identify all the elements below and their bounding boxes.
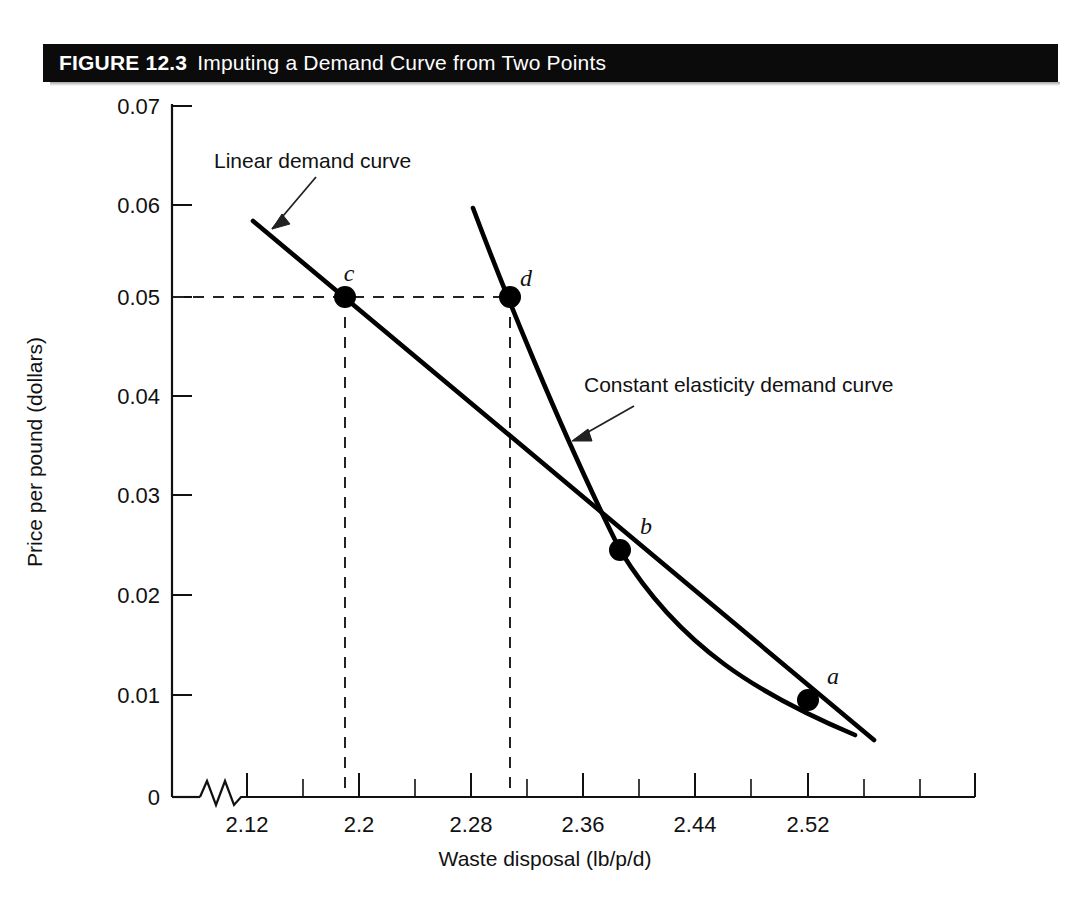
x-tick-labels-group: 2.12 2.2 2.28 2.36 2.44 2.52	[226, 812, 830, 837]
y-tick-label-0.01: 0.01	[117, 683, 160, 708]
data-point-a	[797, 689, 819, 711]
annotation-arrowhead-linear	[272, 214, 290, 229]
x-tick-label-2.52: 2.52	[787, 812, 830, 837]
annotation-linear: Linear demand curve	[214, 149, 411, 229]
data-point-d	[499, 286, 521, 308]
data-point-label-c: c	[344, 260, 355, 286]
y-tick-label-0.06: 0.06	[117, 193, 160, 218]
annotation-arrowhead-constant-elasticity	[572, 429, 592, 441]
x-tick-label-2.44: 2.44	[674, 812, 717, 837]
data-point-labels-group: c d b a	[344, 260, 839, 689]
chart-plot-area: 0.07 0.06 0.05 0.04 0.03 0.02 0.01 0	[0, 0, 1071, 915]
annotation-constant-elasticity: Constant elasticity demand curve	[572, 373, 893, 441]
figure-container: FIGURE 12.3Imputing a Demand Curve from …	[0, 0, 1071, 915]
data-point-label-a: a	[827, 663, 839, 689]
y-tick-label-0.07: 0.07	[117, 94, 160, 119]
x-tick-label-2.2: 2.2	[344, 812, 375, 837]
y-tick-label-0.05: 0.05	[117, 285, 160, 310]
data-point-label-b: b	[640, 513, 652, 539]
data-point-c	[334, 286, 356, 308]
x-tick-label-2.28: 2.28	[450, 812, 493, 837]
data-point-label-d: d	[520, 265, 533, 291]
y-ticks-group	[172, 106, 192, 695]
y-tick-label-0.03: 0.03	[117, 483, 160, 508]
y-tick-labels-group: 0.07 0.06 0.05 0.04 0.03 0.02 0.01 0	[117, 94, 160, 810]
y-axis-title: Price per pound (dollars)	[23, 337, 46, 567]
x-tick-label-2.12: 2.12	[226, 812, 269, 837]
y-tick-label-0.02: 0.02	[117, 583, 160, 608]
x-axis-break-icon	[200, 781, 975, 805]
y-tick-label-0.04: 0.04	[117, 384, 160, 409]
x-ticks-group	[247, 773, 975, 797]
x-axis-title: Waste disposal (lb/p/d)	[439, 847, 652, 870]
x-tick-label-2.36: 2.36	[562, 812, 605, 837]
y-tick-label-0: 0	[148, 785, 160, 810]
data-point-b	[609, 539, 631, 561]
reference-lines-group	[173, 297, 510, 797]
annotation-label-constant-elasticity-demand-curve: Constant elasticity demand curve	[584, 373, 893, 396]
annotation-label-linear-demand-curve: Linear demand curve	[214, 149, 411, 172]
